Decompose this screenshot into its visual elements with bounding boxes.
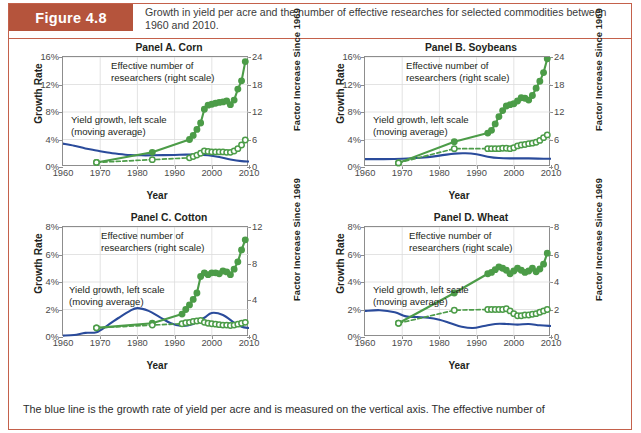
y-tick-label-right: 6 xyxy=(252,135,257,145)
y-tick-label-left: 4% xyxy=(46,135,59,145)
figure-header: Figure 4.8 Growth in yield per acre and … xyxy=(9,4,631,39)
figure-caption: Growth in yield per acre and the number … xyxy=(145,6,615,33)
data-point-marker xyxy=(239,247,244,252)
y-axis-label-right: Factor Increase Since 1969 xyxy=(593,0,604,145)
x-tick-label: 1960 xyxy=(355,168,376,178)
y-tick-label-right: 6 xyxy=(554,250,559,260)
y-tick-label-right: 4 xyxy=(252,295,257,305)
panel-title: Panel D. Wheat xyxy=(321,212,621,223)
data-point-marker xyxy=(493,121,498,126)
y-tick-label-left: 12% xyxy=(342,80,361,90)
y-tick-label-left: 6% xyxy=(348,250,361,260)
figure-frame: Figure 4.8 Growth in yield per acre and … xyxy=(8,3,632,430)
x-tick-label: 2010 xyxy=(541,338,562,348)
x-tick-label: 2000 xyxy=(503,168,524,178)
panel-wheat: Panel D. WheatGrowth RateFactor Increase… xyxy=(321,212,621,380)
panel-cotton: Panel C. CottonGrowth RateFactor Increas… xyxy=(19,212,319,380)
x-tick-label: 1960 xyxy=(53,168,74,178)
x-tick-mark xyxy=(551,335,552,339)
data-point-marker xyxy=(243,320,248,325)
x-tick-mark xyxy=(249,165,250,169)
x-tick-label: 2010 xyxy=(541,168,562,178)
data-point-marker xyxy=(94,160,99,165)
data-point-marker xyxy=(537,79,542,84)
y-tick-label-left: 8% xyxy=(348,107,361,117)
data-point-marker xyxy=(243,59,248,64)
data-point-marker xyxy=(198,120,203,125)
data-point-marker xyxy=(228,272,233,277)
data-point-marker xyxy=(94,325,99,330)
y-tick-label-left: 16% xyxy=(342,52,361,62)
data-point-marker xyxy=(530,93,535,98)
data-point-marker xyxy=(194,127,199,132)
y-tick-label-right: 18 xyxy=(252,80,262,90)
x-tick-label: 1980 xyxy=(429,168,450,178)
panels-container: Panel A. CornGrowth RateFactor Increase … xyxy=(9,40,633,395)
x-tick-mark xyxy=(249,335,250,339)
panel-title: Panel A. Corn xyxy=(19,42,319,53)
data-point-marker xyxy=(150,322,155,327)
y-axis-label-left: Growth Rate xyxy=(33,216,44,312)
y-tick-label-right: 8 xyxy=(554,222,559,232)
data-point-marker xyxy=(545,307,550,312)
data-point-marker xyxy=(194,290,199,295)
data-point-marker xyxy=(452,146,457,151)
x-tick-label: 2000 xyxy=(201,338,222,348)
x-axis-label: Year xyxy=(57,360,257,371)
x-tick-label: 1980 xyxy=(127,168,148,178)
figure-number-badge: Figure 4.8 xyxy=(9,4,133,31)
x-tick-label: 1990 xyxy=(164,338,185,348)
x-tick-label: 1970 xyxy=(392,168,413,178)
x-tick-label: 1980 xyxy=(127,338,148,348)
x-tick-label: 1990 xyxy=(164,168,185,178)
x-tick-label: 2010 xyxy=(239,338,260,348)
y-tick-label-left: 8% xyxy=(46,222,59,232)
x-tick-label: 1990 xyxy=(466,168,487,178)
y-axis-label-right: Factor Increase Since 1969 xyxy=(593,165,604,315)
y-tick-label-right: 4 xyxy=(554,277,559,287)
y-tick-label-right: 2 xyxy=(554,305,559,315)
series-yield-growth-0 xyxy=(365,153,551,159)
y-tick-label-left: 4% xyxy=(46,277,59,287)
x-axis-label: Year xyxy=(359,360,559,371)
x-axis-label: Year xyxy=(359,190,559,201)
panel-title: Panel B. Soybeans xyxy=(321,42,621,53)
y-tick-label-left: 4% xyxy=(348,135,361,145)
data-point-marker xyxy=(545,132,550,137)
x-tick-label: 1970 xyxy=(90,168,111,178)
y-axis-label-left: Growth Rate xyxy=(335,216,346,312)
data-point-marker xyxy=(452,139,457,144)
data-point-marker xyxy=(496,114,501,119)
data-point-marker xyxy=(541,70,546,75)
panel-title: Panel C. Cotton xyxy=(19,212,319,223)
annotation-researchers: Effective number of researchers (right s… xyxy=(406,60,509,83)
y-tick-label-right: 12 xyxy=(252,222,262,232)
data-point-marker xyxy=(396,321,401,326)
y-tick-label-left: 16% xyxy=(40,52,59,62)
data-point-marker xyxy=(231,266,236,271)
annotation-researchers: Effective number of researchers (right s… xyxy=(101,230,204,253)
y-tick-label-left: 12% xyxy=(40,80,59,90)
y-tick-label-right: 12 xyxy=(554,107,564,117)
y-tick-label-left: 8% xyxy=(46,107,59,117)
panel-corn: Panel A. CornGrowth RateFactor Increase … xyxy=(19,42,319,210)
data-point-marker xyxy=(243,237,248,242)
x-tick-label: 1960 xyxy=(355,338,376,348)
y-tick-label-right: 18 xyxy=(554,80,564,90)
x-tick-label: 1960 xyxy=(53,338,74,348)
y-tick-label-left: 2% xyxy=(46,305,59,315)
annotation-yield-growth: Yield growth, left scale (moving average… xyxy=(373,114,469,137)
data-point-marker xyxy=(239,78,244,83)
data-point-marker xyxy=(452,307,457,312)
y-tick-label-right: 12 xyxy=(252,107,262,117)
y-tick-label-right: 8 xyxy=(252,259,257,269)
annotation-yield-growth: Yield growth, left scale (moving average… xyxy=(71,114,167,137)
figure-footnote: The blue line is the growth rate of yiel… xyxy=(23,402,618,416)
y-tick-label-left: 8% xyxy=(348,222,361,232)
x-tick-label: 1990 xyxy=(466,338,487,348)
data-point-marker xyxy=(396,160,401,165)
x-tick-label: 2010 xyxy=(239,168,260,178)
x-tick-mark xyxy=(551,165,552,169)
data-point-marker xyxy=(243,137,248,142)
data-point-marker xyxy=(489,128,494,133)
